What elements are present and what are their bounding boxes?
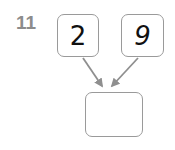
arrow-left-to-sum	[83, 58, 102, 86]
addend-box-right[interactable]: 9	[121, 14, 164, 57]
arrow-right-to-sum	[112, 58, 138, 86]
addend-box-left[interactable]: 2	[57, 14, 99, 57]
sum-answer-box[interactable]	[85, 92, 143, 137]
addend-left-value: 2	[70, 23, 87, 49]
addend-right-value: 9	[134, 23, 151, 49]
problem-number: 11	[16, 13, 36, 33]
worksheet-canvas: 11 2 9	[0, 0, 175, 150]
